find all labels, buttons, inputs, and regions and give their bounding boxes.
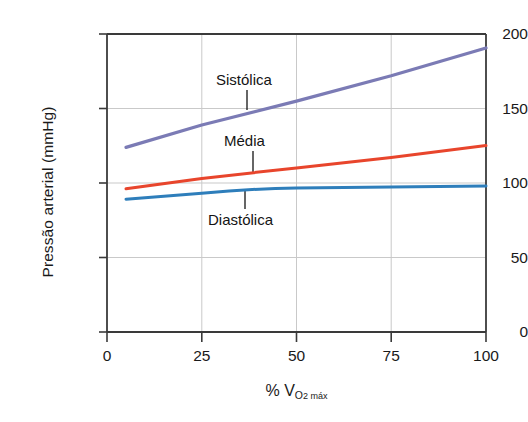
blood-pressure-chart: Pressão arterial (mmHg) 200 150 100 50 0… [0, 0, 528, 422]
x-axis-ticks [107, 332, 486, 342]
series-line-sistolica [126, 48, 486, 147]
series-line-media [126, 146, 486, 189]
y-axis-ticks [99, 34, 107, 332]
series-line-diastolica [126, 186, 486, 199]
plot-area [0, 0, 528, 422]
